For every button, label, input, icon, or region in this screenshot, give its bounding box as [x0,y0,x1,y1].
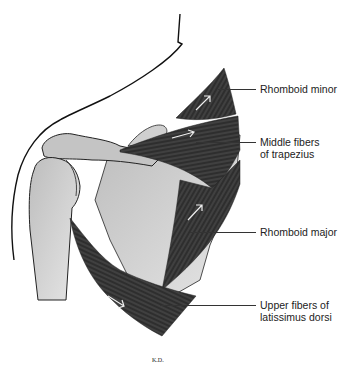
leader-rhomboid-minor [218,89,256,90]
leader-rhomboid-major [190,232,256,233]
rhomboid-minor-muscle [176,68,236,120]
label-rhomboid-minor: Rhomboid minor [260,83,337,95]
label-line: of trapezius [260,148,320,160]
label-line: Rhomboid minor [260,83,337,95]
label-rhomboid-major: Rhomboid major [260,226,337,238]
label-line: Middle fibers [260,136,320,148]
label-middle-trapezius: Middle fibers of trapezius [260,136,320,160]
label-upper-latissimus: Upper fibers of latissimus dorsi [260,299,332,323]
leader-latissimus [160,305,256,306]
label-line: Rhomboid major [260,226,337,238]
label-line: latissimus dorsi [260,311,332,323]
label-line: Upper fibers of [260,299,332,311]
artist-signature: K.D. [152,357,164,363]
leader-middle-trapezius [196,142,256,143]
